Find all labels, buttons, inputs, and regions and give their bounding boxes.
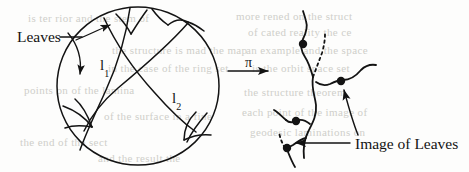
graph-branch-bottom-tail: [288, 152, 295, 167]
graph-trunk: [304, 77, 316, 158]
leaves-arrow-upper: [76, 25, 110, 40]
image-leaves-arrow-upper: [344, 90, 358, 135]
geodesic-l2: [104, 18, 196, 132]
geodesic-l2-label: l2: [172, 91, 181, 109]
image-of-leaves-label: Image of Leaves: [355, 136, 458, 152]
projection-map-label: π: [245, 56, 252, 70]
geodesic-crossing-left: [80, 8, 130, 150]
figure-container: is ter rior and the stem of more rened o…: [0, 0, 469, 172]
graph-vertex-dot: [337, 77, 345, 85]
geodesic-l1-subscript: 1: [104, 68, 109, 79]
geodesic-l1: [84, 23, 188, 131]
graph-branch-right-tail: [343, 65, 376, 80]
geodesic-l2-subscript: 2: [176, 101, 181, 112]
leaf-arc-top-2: [131, 10, 147, 34]
graph-branch-lower-left-tail: [274, 110, 286, 120]
graph-vertex-dot: [299, 40, 307, 48]
graph-vertex-dot: [283, 144, 291, 152]
graph-vertex-dot: [292, 117, 300, 125]
geodesic-l1-label: l1: [100, 58, 109, 76]
disk-boundary-circle: [57, 7, 219, 165]
leaves-label: Leaves: [17, 29, 61, 45]
graph-branch-upper-dashed: [313, 34, 325, 77]
